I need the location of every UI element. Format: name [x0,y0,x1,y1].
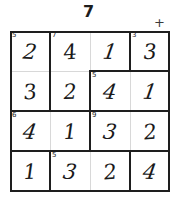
cage-border-h-r2-full [10,110,170,112]
page-title: 7 [0,4,177,20]
cell-r3c3[interactable]: 9 3 [90,111,130,151]
grid-cells: 5 2 7 4 1 3 3 3 2 [10,31,170,192]
cell-r4c2[interactable]: 5 3 [50,151,90,191]
cage-border-v-c1-r4 [49,151,51,192]
cell-value: 1 [87,31,133,72]
cell-r3c4[interactable]: 2 [130,111,170,151]
cell-value: 4 [7,111,53,152]
cell-value: 3 [47,150,93,192]
cell-r2c1[interactable]: 3 [10,71,50,111]
cell-r1c3[interactable]: 1 [90,31,130,71]
cell-value: 4 [127,151,173,192]
cell-value: 2 [49,71,91,112]
cell-value: 2 [7,30,53,72]
cell-r1c2[interactable]: 7 4 [50,31,90,71]
cell-r3c2[interactable]: 1 [50,111,90,151]
killer-sudoku-grid[interactable]: 5 2 7 4 1 3 3 3 2 [10,31,170,192]
plus-icon: + [154,16,165,29]
cell-r4c1[interactable]: 1 [10,151,50,191]
cell-value: 4 [87,70,133,112]
cell-value: 3 [7,70,52,112]
cell-value: 2 [87,150,132,192]
cell-r3c1[interactable]: 6 4 [10,111,50,151]
cage-border-v-c1-r12 [49,31,51,111]
cell-value: 3 [87,110,133,152]
puzzle-page: 7 + 5 2 7 4 1 3 3 3 [0,0,177,202]
cage-border-v-c3-r4 [129,151,131,192]
cell-value: 4 [47,30,92,72]
cage-border-v-c2-r3 [89,111,91,151]
cage-border-h-r3-full [10,150,170,152]
cage-border-v-c3-r1 [129,31,131,71]
cell-r2c3[interactable]: 5 4 [90,71,130,111]
grid-border-bottom [10,190,170,192]
cell-r4c3[interactable]: 2 [90,151,130,191]
cell-r4c4[interactable]: 4 [130,151,170,191]
grid-border-top [10,31,170,33]
cell-value: 1 [127,71,173,112]
cell-r1c1[interactable]: 5 2 [10,31,50,71]
puzzle-header: 7 + [0,0,177,31]
cage-border-h-r1-c34 [89,70,170,72]
cage-border-v-c2-r2 [89,71,91,111]
cell-value: 1 [49,111,91,152]
cell-r1c4[interactable]: 3 3 [130,31,170,71]
cell-r2c2[interactable]: 2 [50,71,90,111]
cell-value: 1 [9,151,51,192]
cell-value: 3 [129,31,171,72]
cell-r2c4[interactable]: 1 [130,71,170,111]
cell-value: 2 [127,110,172,152]
